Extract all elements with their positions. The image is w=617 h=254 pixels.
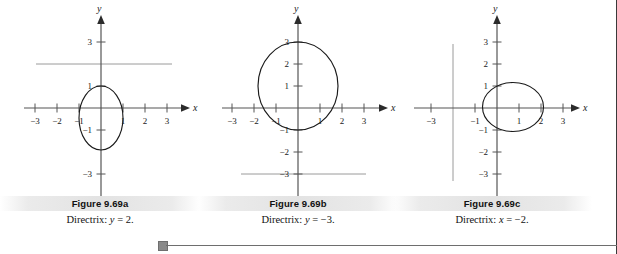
figure-9-69b: x y −3 −2 −1 xyxy=(198,0,398,254)
caption-b: Figure 9.69b Directrix: y = −3. xyxy=(198,196,398,226)
y-axis-arrow-c xyxy=(493,15,501,24)
y-tick-label: −2 xyxy=(478,147,488,157)
y-axis-arrow-a xyxy=(97,15,105,24)
coordinate-plot-c: x y −3 −1 1 2 xyxy=(392,0,592,196)
y-axis-label-a: y xyxy=(96,3,102,14)
y-tick-label: −3 xyxy=(82,169,92,179)
y-tick-label: −2 xyxy=(279,147,289,157)
x-axis-arrow-b xyxy=(379,104,388,112)
plot-area-a: x y −3 −2 −1 xyxy=(0,0,200,196)
figure-panel: x y −3 −2 −1 xyxy=(0,0,617,254)
x-tick-label: −2 xyxy=(249,116,259,126)
y-tick-label: −3 xyxy=(279,169,289,179)
caption-c: Figure 9.69c Directrix: x = −2. xyxy=(392,196,592,226)
directrix-value-a: = 2. xyxy=(115,214,134,225)
x-tick-label: −2 xyxy=(52,116,62,126)
y-tick-label: 2 xyxy=(285,59,290,69)
y-tick-label: 3 xyxy=(285,37,290,47)
x-tick-label: −3 xyxy=(426,116,436,126)
y-axis-label-c: y xyxy=(492,3,498,14)
x-axis-arrow-c xyxy=(571,104,580,112)
directrix-value-c: = −2. xyxy=(504,214,529,225)
y-tick-label: 3 xyxy=(88,37,93,47)
figure-9-69c: x y −3 −1 1 2 xyxy=(392,0,592,254)
y-tick-label: −1 xyxy=(82,125,92,135)
x-axis-label-c: x xyxy=(582,102,588,113)
directrix-label-b: Directrix: xyxy=(261,214,304,225)
directrix-value-b: = −3. xyxy=(310,214,335,225)
y-axis-arrow-b xyxy=(294,15,302,24)
caption-title-a: Figure 9.69a xyxy=(0,196,200,211)
conic-curve-c xyxy=(483,83,544,132)
caption-subtitle-a: Directrix: y = 2. xyxy=(0,214,200,226)
caption-a: Figure 9.69a Directrix: y = 2. xyxy=(0,196,200,226)
y-tick-label: −3 xyxy=(478,169,488,179)
directrix-label-a: Directrix: xyxy=(66,214,109,225)
y-tick-label: 2 xyxy=(484,59,489,69)
x-tick-label: 3 xyxy=(165,116,170,126)
x-tick-label: −3 xyxy=(30,116,40,126)
coordinate-plot-a: x y −3 −2 −1 xyxy=(0,0,200,196)
x-tick-label: 3 xyxy=(362,116,367,126)
rule-line xyxy=(166,245,617,246)
figure-9-69a: x y −3 −2 −1 xyxy=(0,0,200,254)
x-tick-label: 2 xyxy=(143,116,148,126)
x-axis-arrow-a xyxy=(181,104,190,112)
x-tick-label: 3 xyxy=(561,116,566,126)
caption-title-b: Figure 9.69b xyxy=(198,196,398,211)
y-tick-label: 1 xyxy=(484,81,489,91)
caption-subtitle-b: Directrix: y = −3. xyxy=(198,214,398,226)
caption-title-c: Figure 9.69c xyxy=(392,196,592,211)
figure-row: x y −3 −2 −1 xyxy=(0,0,617,254)
y-tick-label: −1 xyxy=(478,125,488,135)
y-axis-label-b: y xyxy=(293,3,299,14)
directrix-label-c: Directrix: xyxy=(455,214,498,225)
x-tick-label: 2 xyxy=(340,116,345,126)
x-tick-label: 1 xyxy=(517,116,522,126)
plot-area-b: x y −3 −2 −1 xyxy=(198,0,398,196)
x-tick-label: −3 xyxy=(227,116,237,126)
caption-subtitle-c: Directrix: x = −2. xyxy=(392,214,592,226)
y-tick-label: 1 xyxy=(285,81,290,91)
bottom-rule-with-handle xyxy=(158,243,617,249)
coordinate-plot-b: x y −3 −2 −1 xyxy=(198,0,398,196)
y-tick-label: 3 xyxy=(484,37,489,47)
plot-area-c: x y −3 −1 1 2 xyxy=(392,0,592,196)
